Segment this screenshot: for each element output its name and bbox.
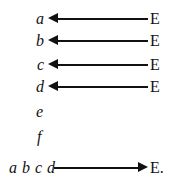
term-label-e: e (36, 101, 43, 123)
arrowhead-left-c (48, 59, 58, 69)
diagram-row-a: a E (0, 8, 169, 30)
arrowhead-left-b (48, 35, 58, 45)
arrow-shaft-b (58, 40, 148, 42)
term-label-e-upper-abcd: E. (150, 157, 164, 179)
arrow-shaft-d (58, 86, 148, 88)
term-label-d: d (36, 76, 45, 98)
term-label-e-upper-c: E (150, 54, 160, 76)
diagram-row-c: c E (0, 54, 169, 76)
diagram-row-b: b E (0, 30, 169, 52)
term-label-group-abcd: a b c d (9, 157, 56, 179)
diagram-row-d: d E (0, 76, 169, 98)
arrow-shaft-a (58, 18, 148, 20)
term-label-c: c (37, 54, 45, 76)
term-label-e-upper-b: E (150, 30, 160, 52)
arrowhead-left-a (48, 13, 58, 23)
arrow-shaft-c (58, 64, 148, 66)
term-label-f: f (37, 126, 41, 148)
diagram-row-abcd: a b c d E. (0, 157, 169, 179)
term-label-e-upper-d: E (150, 76, 160, 98)
term-label-b: b (36, 30, 45, 52)
term-label-a: a (36, 8, 45, 30)
arrowhead-left-d (48, 81, 58, 91)
diagram-figure: a E b E c E d E e f a b c d E. (0, 0, 169, 181)
term-label-e-upper-a: E (150, 8, 160, 30)
arrow-shaft-abcd (54, 167, 140, 169)
arrowhead-right-abcd (138, 162, 148, 172)
